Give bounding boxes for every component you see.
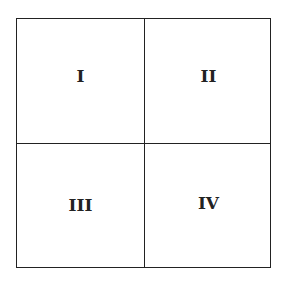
quadrant-3-label: III xyxy=(17,143,144,267)
quadrant-4-label: IV xyxy=(145,141,272,265)
quadrant-grid: I II III IV xyxy=(16,18,271,268)
quadrant-1-label: I xyxy=(17,14,144,138)
quadrant-2-label: II xyxy=(145,14,272,138)
